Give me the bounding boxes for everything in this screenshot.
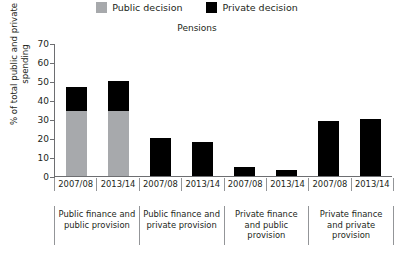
- bar-slot-3: [181, 44, 223, 176]
- bar-container: [55, 44, 392, 176]
- group-label: Public finance and private provision: [140, 206, 225, 245]
- x-tick-label: 2007/08: [55, 178, 97, 191]
- chart-title: Pensions: [0, 23, 394, 34]
- bar-slot-5: [266, 44, 308, 176]
- x-tick-label: 2013/14: [267, 178, 309, 191]
- chart-legend: Public decision Private decision: [0, 2, 394, 13]
- x-tick-label: 2007/08: [225, 178, 267, 191]
- legend-entry-private-decision: Private decision: [206, 2, 297, 13]
- legend-label-public-decision: Public decision: [112, 2, 182, 13]
- stacked-bar[interactable]: [276, 170, 297, 176]
- x-axis-line: [54, 176, 392, 177]
- group-label: Public finance and public provision: [55, 206, 140, 245]
- bar-segment-private: [276, 170, 297, 176]
- stacked-bar[interactable]: [150, 138, 171, 176]
- x-axis-categories: 2007/08 2013/14 2007/08 2013/14 2007/08 …: [54, 178, 394, 191]
- x-tick-label: 2007/08: [140, 178, 182, 191]
- bar-slot-2: [139, 44, 181, 176]
- legend-label-private-decision: Private decision: [222, 2, 297, 13]
- x-tick-label: 2013/14: [97, 178, 139, 191]
- bar-segment-public: [108, 111, 129, 176]
- group-label: Private finance and private provision: [309, 206, 394, 245]
- stacked-bar[interactable]: [318, 121, 339, 176]
- chart-figure: Public decision Private decision Pension…: [0, 0, 394, 258]
- x-axis-groups: Public finance and public provision Publ…: [54, 206, 394, 245]
- bar-segment-private: [150, 138, 171, 176]
- plot-area: 0 10 20 30 40 50 60 70: [54, 44, 392, 177]
- legend-swatch-public-decision: [96, 2, 107, 13]
- x-tick-label: 2013/14: [182, 178, 224, 191]
- bar-slot-1: [97, 44, 139, 176]
- y-tick-label-30: 30: [38, 116, 49, 125]
- y-tick-label-70: 70: [38, 40, 49, 49]
- bar-segment-private: [234, 167, 255, 177]
- stacked-bar[interactable]: [108, 81, 129, 176]
- y-tick-label-40: 40: [38, 97, 49, 106]
- bar-slot-7: [350, 44, 392, 176]
- x-tick-label: 2007/08: [309, 178, 351, 191]
- stacked-bar[interactable]: [234, 167, 255, 177]
- stacked-bar[interactable]: [192, 142, 213, 176]
- stacked-bar[interactable]: [360, 119, 381, 176]
- bar-segment-private: [66, 87, 87, 112]
- y-tick-label-60: 60: [38, 59, 49, 68]
- legend-entry-public-decision: Public decision: [96, 2, 182, 13]
- bar-slot-0: [55, 44, 97, 176]
- legend-swatch-private-decision: [206, 2, 217, 13]
- y-axis-label: % of total public and private spending: [9, 0, 33, 129]
- bar-slot-6: [308, 44, 350, 176]
- stacked-bar[interactable]: [66, 87, 87, 176]
- y-tick-label-10: 10: [38, 154, 49, 163]
- bar-segment-private: [360, 119, 381, 176]
- bar-segment-private: [318, 121, 339, 176]
- y-tick-label-50: 50: [38, 78, 49, 87]
- group-label: Private finance and public provision: [225, 206, 310, 245]
- bar-segment-public: [66, 111, 87, 176]
- y-tick-label-0: 0: [43, 173, 49, 182]
- y-tick-label-20: 20: [38, 135, 49, 144]
- bar-segment-private: [108, 81, 129, 111]
- x-tick-label: 2013/14: [352, 178, 394, 191]
- bar-slot-4: [224, 44, 266, 176]
- bar-segment-private: [192, 142, 213, 176]
